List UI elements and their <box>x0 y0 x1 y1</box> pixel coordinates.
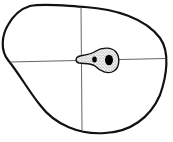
diagram-svg <box>0 0 173 142</box>
small-spot <box>92 57 97 63</box>
vertical-axis-line <box>81 7 82 130</box>
diagram-canvas <box>0 0 173 142</box>
outer-outline <box>3 5 167 134</box>
large-spot <box>105 55 113 65</box>
